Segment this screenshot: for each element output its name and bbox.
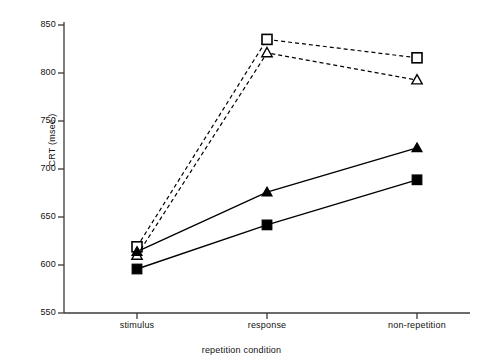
data-point-marker <box>412 143 422 152</box>
chart-container: CRT (msec.) repetition condition 850 800… <box>0 0 483 364</box>
data-point-marker <box>262 48 272 57</box>
data-point-marker <box>412 75 422 84</box>
data-point-marker <box>412 175 422 185</box>
x-axis-ticks <box>137 313 417 319</box>
series-open-triangle-dashed <box>132 48 422 260</box>
axis-lines <box>64 22 470 313</box>
series-filled-triangle-solid <box>132 143 422 256</box>
y-axis-ticks <box>58 25 64 313</box>
series-open-square-dashed <box>132 34 422 251</box>
data-point-marker <box>262 34 272 44</box>
data-point-marker <box>412 53 422 63</box>
data-point-marker <box>262 220 272 230</box>
data-point-marker <box>132 264 142 274</box>
plot-area <box>0 0 483 364</box>
